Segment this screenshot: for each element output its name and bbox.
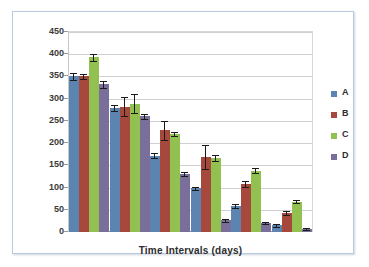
error-bar-cap-bottom (283, 215, 290, 216)
error-bar-cap-bottom (80, 79, 87, 80)
bar-d-2 (140, 116, 150, 232)
legend-swatch-icon (331, 112, 337, 118)
bar-group (191, 32, 232, 232)
error-bar-cap-bottom (171, 136, 178, 137)
bar-c-1 (89, 57, 99, 232)
error-bar-cap-bottom (111, 111, 118, 112)
error-bar (205, 145, 206, 169)
error-bar-cap-top (181, 172, 188, 173)
legend-entry-c[interactable]: C (331, 129, 369, 150)
error-bar-cap-bottom (303, 230, 310, 231)
legend-swatch-icon (331, 133, 337, 139)
y-tick-mark (64, 187, 68, 188)
error-bar-cap-top (232, 204, 239, 205)
error-bar-cap-bottom (262, 224, 269, 225)
legend-swatch-icon (331, 91, 337, 97)
y-tick-mark (64, 31, 68, 32)
x-axis-title: Time Intervals (days) (58, 245, 323, 256)
bar-a-4 (191, 188, 201, 232)
chart-frame: 050100150200250300350400450 Time Interva… (12, 11, 354, 254)
error-bar-cap-top (100, 81, 107, 82)
error-bar-cap-bottom (141, 119, 148, 120)
y-tick-label: 50 (30, 205, 64, 214)
y-tick-label: 350 (30, 71, 64, 80)
error-bar-cap-bottom (252, 173, 259, 174)
y-tick-label: 250 (30, 116, 64, 125)
bar-chart-figure: 050100150200250300350400450 Time Interva… (0, 0, 369, 267)
error-bar-cap-bottom (161, 140, 168, 141)
error-bar-cap-top (192, 187, 199, 188)
bar-c-3 (170, 134, 180, 232)
y-tick-mark (64, 75, 68, 76)
y-tick-mark (64, 120, 68, 121)
bar-group (110, 32, 151, 232)
error-bar-cap-bottom (293, 203, 300, 204)
error-bar-cap-top (90, 54, 97, 55)
error-bar-cap-top (222, 219, 229, 220)
bar-b-6 (282, 213, 292, 232)
bar-c-6 (292, 202, 302, 232)
bar-d-1 (99, 84, 109, 232)
bar-a-3 (150, 156, 160, 232)
y-tick-mark (64, 209, 68, 210)
error-bar (93, 54, 94, 61)
error-bar-cap-top (111, 105, 118, 106)
bar-c-5 (251, 171, 261, 232)
error-bar-cap-bottom (70, 80, 77, 81)
error-bar-cap-top (273, 224, 280, 225)
error-bar-cap-top (262, 222, 269, 223)
legend-label: B (342, 108, 349, 118)
error-bar (134, 94, 135, 114)
error-bar-cap-bottom (131, 113, 138, 114)
y-tick-label: 200 (30, 138, 64, 147)
bar-c-4 (211, 158, 221, 232)
y-tick-mark (64, 164, 68, 165)
bar-group (150, 32, 191, 232)
error-bar-cap-top (80, 74, 87, 75)
bar-c-2 (130, 104, 140, 232)
legend-entry-d[interactable]: D (331, 150, 369, 171)
error-bar-cap-top (70, 73, 77, 74)
y-tick-label: 450 (30, 27, 64, 36)
error-bar (164, 121, 165, 140)
error-bar-cap-bottom (242, 187, 249, 188)
error-bar-cap-top (131, 94, 138, 95)
chart-legend: ABCD (331, 87, 369, 171)
legend-entry-a[interactable]: A (331, 87, 369, 108)
plot-area (68, 31, 313, 232)
y-tick-label: 150 (30, 160, 64, 169)
bar-b-1 (79, 76, 89, 232)
bar-a-5 (231, 206, 241, 232)
error-bar-cap-bottom (151, 158, 158, 159)
y-tick-mark (64, 98, 68, 99)
y-tick-label: 100 (30, 183, 64, 192)
error-bar-cap-top (293, 200, 300, 201)
error-bar-cap-bottom (121, 116, 128, 117)
bar-group (272, 32, 313, 232)
legend-label: A (342, 87, 349, 97)
error-bar-cap-bottom (100, 88, 107, 89)
y-axis: 050100150200250300350400450 (28, 31, 64, 232)
bar-a-1 (69, 76, 79, 232)
error-bar-cap-top (171, 132, 178, 133)
error-bar-cap-top (283, 211, 290, 212)
y-tick-label: 0 (30, 227, 64, 236)
error-bar (124, 97, 125, 116)
error-bar-cap-bottom (192, 190, 199, 191)
bar-group (231, 32, 272, 232)
bar-b-3 (160, 130, 170, 232)
y-tick-label: 300 (30, 94, 64, 103)
error-bar-cap-bottom (222, 222, 229, 223)
y-tick-mark (64, 53, 68, 54)
error-bar-cap-bottom (181, 176, 188, 177)
legend-swatch-icon (331, 154, 337, 160)
error-bar-cap-top (242, 181, 249, 182)
legend-label: C (342, 129, 349, 139)
bar-d-3 (180, 174, 190, 232)
bar-a-2 (110, 108, 120, 232)
error-bar-cap-top (202, 145, 209, 146)
bar-b-2 (120, 107, 130, 232)
legend-entry-b[interactable]: B (331, 108, 369, 129)
error-bar-cap-bottom (202, 169, 209, 170)
error-bar-cap-top (141, 114, 148, 115)
